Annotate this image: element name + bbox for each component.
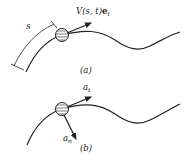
particle-path-diagram: s V(s, t)et (a) at: [0, 0, 190, 158]
figure-b: at an (b): [27, 82, 180, 153]
path-curve-b: [27, 104, 180, 145]
particle-ball-b: [54, 103, 70, 116]
figure-a: s V(s, t)et (a): [11, 6, 180, 75]
arc-length-label: s: [26, 21, 31, 31]
tangential-acceleration-label: at: [83, 82, 91, 93]
figure-a-caption: (a): [80, 65, 92, 75]
path-curve-a: [26, 31, 180, 72]
particle-ball-a: [54, 29, 70, 42]
figure-b-caption: (b): [80, 143, 92, 153]
normal-acceleration-label: an: [63, 133, 72, 144]
velocity-label: V(s, t)et: [76, 6, 110, 17]
arc-length-bracket: [11, 21, 57, 70]
